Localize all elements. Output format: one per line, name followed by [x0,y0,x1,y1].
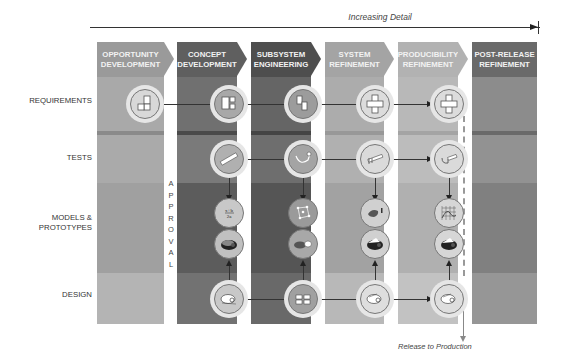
phase-column-opportunity: OPPORTUNITY DEVELOPMENT [97,42,164,324]
row-label-requirements: REQUIREMENTS [2,96,92,106]
chevron-right-icon [237,42,247,76]
chevron-right-icon [311,42,321,76]
phase-header-concept: CONCEPT DEVELOPMENT [177,42,237,77]
phase-header-post-release: POST-RELEASE REFINEMENT [472,42,537,77]
rendered-part-icon [360,229,390,259]
row-label-models-2: PROTOTYPES [2,223,92,233]
rendered-part-icon [214,229,244,259]
row-label-models-1: MODELS & [2,213,92,223]
caliper-icon [288,144,318,174]
chevron-right-icon [164,42,174,76]
row-label-tests: TESTS [2,153,92,163]
increasing-detail-arrow [90,27,540,28]
arrowhead-up-icon [372,260,378,266]
mesh-model-icon [288,198,318,228]
prototype-part-icon [360,198,390,228]
svg-text:2a: 2a [227,214,233,219]
chevron-right-icon [384,42,394,76]
rendered-part-split-icon [288,229,318,259]
cad-sketch-icon [214,284,244,314]
cad-part-icon [434,284,464,314]
cross-layout-icon [434,89,464,119]
phase-header-system: SYSTEM REFINEMENT [325,42,384,77]
phase-header-producibility: PRODUCIBILITY REFINEMENT [398,42,458,77]
subsystem-blocks-icon [288,89,318,119]
arrowhead-right-icon [530,24,538,30]
chevron-right-icon [458,42,468,76]
micrometer-icon [434,144,464,174]
schematic-grid-icon [288,284,318,314]
approval-gate-label: APPROVAL [166,178,176,270]
arrow-end-bar [538,21,539,34]
phase-column-post-release: POST-RELEASE REFINEMENT [472,42,537,324]
rendered-part-icon [434,229,464,259]
phase-header-subsystem: SUBSYSTEM ENGINEERING [251,42,311,77]
graph-plot-icon [434,198,464,228]
ruler-icon [214,144,244,174]
release-dashed-line [463,116,465,276]
arrowhead-up-icon [226,260,232,266]
svg-text:x+b: x+b [225,208,233,213]
phase-header-opportunity: OPPORTUNITY DEVELOPMENT [97,42,164,77]
sketch-blocks-icon [130,89,160,119]
row-label-design: DESIGN [2,290,92,300]
release-arrow-line [463,310,464,338]
cad-part-icon [360,284,390,314]
increasing-detail-label: Increasing Detail [270,12,490,22]
release-to-production-label: Release to Production [398,342,472,351]
cross-layout-icon [360,89,390,119]
arrowhead-up-icon [300,260,306,266]
arrowhead-up-icon [446,260,452,266]
vernier-caliper-icon [360,144,390,174]
block-diagram-icon [214,89,244,119]
equation-icon: x+b2a [214,198,244,228]
